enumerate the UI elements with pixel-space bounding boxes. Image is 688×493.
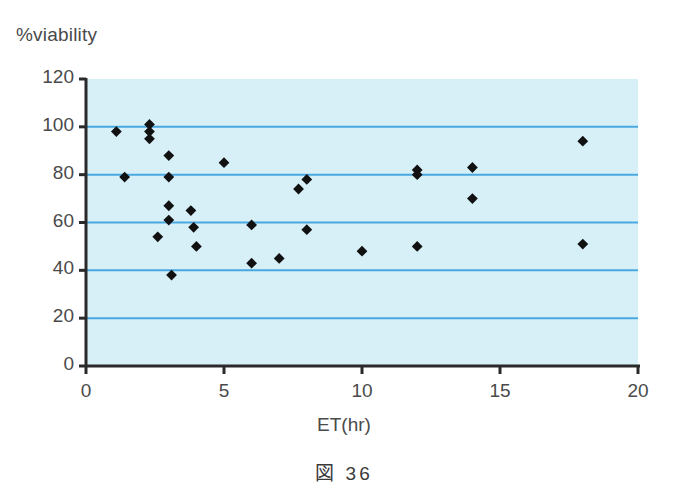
figure-caption: 図 36 — [0, 458, 688, 485]
y-tick-label-60: 60 — [14, 210, 74, 232]
x-tick-label-20: 20 — [608, 380, 668, 402]
y-tick-label-40: 40 — [14, 257, 74, 279]
x-tick-label-15: 15 — [470, 380, 530, 402]
x-tick-label-0: 0 — [56, 380, 116, 402]
x-tick-label-5: 5 — [194, 380, 254, 402]
figure-container: %viability 020406080100120 05101520 ET(h… — [0, 0, 688, 493]
y-tick-label-100: 100 — [14, 114, 74, 136]
y-tick-label-120: 120 — [14, 66, 74, 88]
x-axis-title: ET(hr) — [0, 414, 688, 436]
y-tick-label-80: 80 — [14, 162, 74, 184]
x-tick-label-10: 10 — [332, 380, 392, 402]
y-tick-label-0: 0 — [14, 353, 74, 375]
y-tick-label-20: 20 — [14, 305, 74, 327]
